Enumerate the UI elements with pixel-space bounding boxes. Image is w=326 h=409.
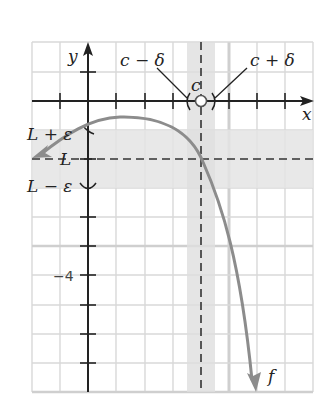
L-label: L	[59, 149, 71, 169]
x-axis-label: x	[302, 104, 312, 124]
open-circle-hole	[196, 96, 207, 107]
L-plus-epsilon-label: L + ε	[26, 124, 72, 144]
function-label-f: f	[266, 366, 277, 386]
curve-bottom-arrow-icon	[247, 372, 261, 392]
y-axis-label: y	[67, 46, 78, 66]
epsilon-delta-diagram: y x c − δ c + δ c L + ε L L − ε −4 f	[0, 0, 326, 409]
c-label: c	[191, 75, 201, 95]
L-minus-epsilon-label: L − ε	[26, 176, 72, 196]
y-tick-label-minus-4: −4	[53, 268, 74, 284]
c-minus-delta-label: c − δ	[120, 50, 165, 70]
c-plus-delta-label: c + δ	[250, 50, 295, 70]
axes	[32, 50, 306, 392]
